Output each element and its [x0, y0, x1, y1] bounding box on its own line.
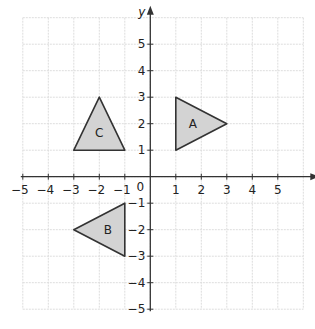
shape-label: A [189, 117, 198, 131]
origin-label: 0 [136, 180, 144, 194]
y-tick-label: −2 [128, 223, 146, 237]
shape-label: C [95, 126, 103, 140]
y-tick-label: −5 [128, 302, 146, 316]
x-tick-label: −2 [87, 183, 105, 197]
x-tick-label: 3 [223, 183, 231, 197]
x-tick-label: −1 [113, 183, 131, 197]
y-tick-label: −4 [128, 276, 146, 290]
y-axis-arrow-icon [147, 6, 154, 15]
y-axis-label: y [137, 5, 146, 19]
y-tick-label: −3 [128, 249, 146, 263]
x-axis-arrow-icon [310, 173, 315, 180]
y-tick-label: 5 [138, 37, 146, 51]
x-tick-label: −4 [36, 183, 54, 197]
coordinate-grid: ABCxy−5−4−3−2−11234554321−1−2−3−4−50 [0, 0, 315, 329]
y-tick-label: 3 [138, 90, 146, 104]
y-tick-label: 1 [138, 143, 146, 157]
y-tick-label: 2 [138, 117, 146, 131]
x-tick-label: 5 [274, 183, 282, 197]
x-tick-label: 4 [248, 183, 256, 197]
x-tick-label: −3 [62, 183, 80, 197]
x-tick-label: 1 [172, 183, 180, 197]
y-tick-label: −1 [128, 196, 146, 210]
y-tick-label: 4 [138, 64, 146, 78]
shape-label: B [104, 223, 112, 237]
x-tick-label: 2 [197, 183, 205, 197]
x-tick-label: −5 [11, 183, 29, 197]
